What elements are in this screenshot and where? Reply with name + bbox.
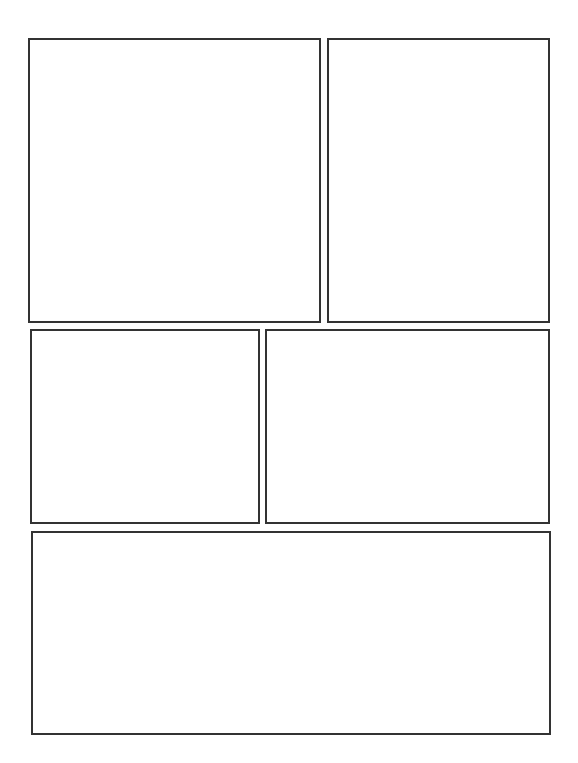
- panel-row2-right: [265, 329, 550, 524]
- panel-row1-right: [327, 38, 550, 323]
- panel-row3-full: [31, 531, 551, 735]
- panel-row2-left: [30, 329, 260, 524]
- panel-row1-left: [28, 38, 321, 323]
